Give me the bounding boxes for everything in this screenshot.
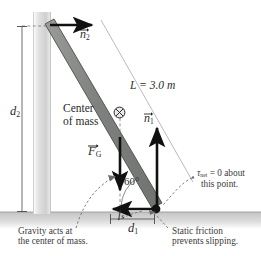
label-fs: fs <box>118 207 124 221</box>
label-center-of-mass-line1: Center <box>63 102 98 115</box>
diagram-canvas <box>0 0 261 256</box>
label-n2: n2 <box>80 28 90 42</box>
center-of-mass-marker <box>114 107 125 118</box>
label-center-of-mass-line2: of mass <box>63 115 98 128</box>
label-d1-subscript: 1 <box>134 227 138 236</box>
label-d1: d1 <box>128 221 138 236</box>
label-fs-symbol: f <box>118 207 121 220</box>
annotation-gravity-line2: the center of mass. <box>18 236 88 246</box>
label-fg-subscript: G <box>96 150 102 159</box>
annotation-static-friction: Static friction prevents slipping. <box>172 226 238 247</box>
annotation-gravity: Gravity acts at the center of mass. <box>18 226 88 247</box>
label-n1-symbol: n <box>144 112 150 125</box>
wall <box>33 12 51 214</box>
construction-line <box>101 20 193 182</box>
label-d2: d2 <box>10 104 20 119</box>
physics-diagram: d2 d1 L = 3.0 m 60° n2 n1 FG <box>0 0 261 256</box>
annotation-net-torque-line1: τnet = 0 about <box>197 168 245 179</box>
label-n1-subscript: 1 <box>150 117 154 126</box>
label-angle: 60° <box>124 175 139 187</box>
annotation-net-torque-line2: this point. <box>201 179 245 189</box>
label-beam-length: L = 3.0 m <box>130 79 175 92</box>
label-center-of-mass: Center of mass <box>63 102 98 128</box>
label-n2-symbol: n <box>80 28 86 41</box>
vector-arrow-overbar-fg <box>88 144 99 148</box>
vector-arrow-overbar-n1 <box>144 112 153 116</box>
annotation-net-torque: τnet = 0 about this point. <box>197 168 245 189</box>
annotation-static-friction-line2: prevents slipping. <box>172 236 238 246</box>
label-fg: FG <box>88 144 101 159</box>
vector-arrow-overbar-fs <box>118 207 124 211</box>
leader-torque <box>163 176 194 205</box>
label-d2-subscript: 2 <box>16 110 20 119</box>
annotation-gravity-line1: Gravity acts at <box>18 226 88 236</box>
label-fs-subscript: s <box>121 212 124 221</box>
annotation-static-friction-line1: Static friction <box>172 226 238 236</box>
label-n2-subscript: 2 <box>86 33 90 42</box>
label-fg-symbol: F <box>88 144 96 158</box>
label-n1: n1 <box>144 112 154 126</box>
vector-arrow-overbar-n2 <box>80 28 89 32</box>
